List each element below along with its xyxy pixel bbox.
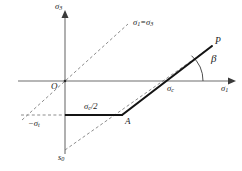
sigma-t-subscript: t: [38, 122, 40, 128]
origin-label: O: [51, 82, 58, 91]
beta-angle-label: β: [211, 53, 216, 64]
s-zero-subscript: 0: [61, 156, 64, 162]
sigma-c-half-divisor: /2: [91, 101, 98, 111]
sigma3-axis-label: σ3: [55, 2, 62, 11]
negative-sigma-t-label: −σt: [28, 119, 40, 128]
sigma1-equals-sigma3-label: σ1=σ3: [133, 18, 153, 27]
horizontal-axis-arrow-icon: [228, 77, 236, 84]
sigma1-axis-label: σ1: [221, 84, 228, 93]
s-zero-label: s0: [58, 153, 64, 162]
point-a-marker: [121, 114, 123, 116]
figure-canvas: [0, 0, 242, 171]
sigma-c-intercept-label: σc: [167, 84, 174, 93]
sigma1-axis-subscript: 1: [225, 87, 228, 93]
point-p-marker: [211, 45, 213, 47]
diagonal-right-subscript: 3: [150, 21, 153, 27]
dashed-lines-group: [21, 24, 211, 150]
sigma3-axis-subscript: 3: [59, 5, 62, 11]
sigma-c-over-two-label: σc/2: [84, 102, 98, 111]
figure-container: σ3 σ1=σ3 P β O σc σ1 σc/2 A −σt s0: [0, 0, 242, 171]
sigma-c-intercept-subscript: c: [171, 87, 174, 93]
point-a-label: A: [125, 117, 131, 126]
vertical-axis-arrow-icon: [62, 10, 69, 18]
origin-marker: [64, 80, 67, 83]
sigma1-equals-sigma3-line: [22, 24, 128, 120]
point-p-label: P: [215, 37, 221, 47]
